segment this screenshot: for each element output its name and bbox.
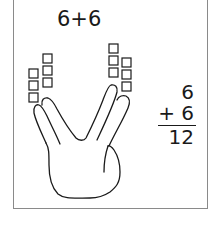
block [122,58,131,67]
block [43,66,52,75]
block [109,56,118,65]
right-blocks [109,44,131,91]
block [29,81,38,90]
left-blocks [29,54,52,102]
sum-result: 12 [158,127,194,148]
hand-outline [34,85,130,198]
block [109,44,118,53]
block [122,82,131,91]
addend-1: 6 [158,82,194,103]
block [122,70,131,79]
block [29,69,38,78]
addend-2: + 6 [158,103,194,124]
block [109,68,118,77]
block [43,78,52,87]
vertical-addition: 6 + 6 12 [158,82,194,148]
block [29,93,38,102]
block [43,54,52,63]
